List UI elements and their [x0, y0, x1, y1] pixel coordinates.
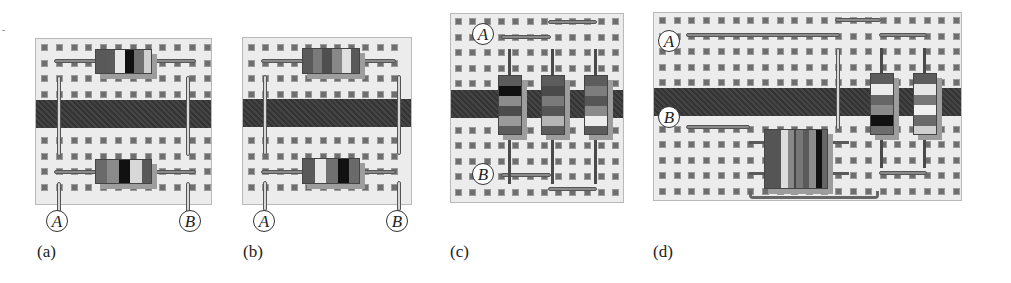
hole: [938, 188, 945, 195]
hole: [569, 127, 576, 134]
hole: [850, 126, 857, 133]
hole: [204, 75, 211, 82]
hole: [204, 60, 211, 67]
resistor: [764, 129, 795, 189]
hole: [115, 91, 122, 98]
hole: [189, 184, 196, 191]
color-band: [803, 130, 810, 188]
hole: [612, 18, 619, 25]
hole: [703, 17, 710, 24]
node-label-a: A: [658, 30, 680, 52]
hole: [777, 79, 784, 86]
hole: [377, 153, 384, 160]
hole: [703, 64, 710, 71]
hole: [894, 188, 901, 195]
hole: [703, 172, 710, 179]
color-band: [342, 49, 352, 73]
color-band: [585, 76, 607, 86]
hole: [527, 189, 534, 196]
hole: [541, 142, 548, 149]
hole: [747, 17, 754, 24]
hole: [291, 91, 298, 98]
hole: [659, 172, 666, 179]
color-band: [809, 130, 816, 188]
hole: [277, 75, 284, 82]
jumper-wire: [263, 181, 267, 211]
hole: [204, 168, 211, 175]
hole: [674, 17, 681, 24]
hole: [484, 80, 491, 87]
color-band: [499, 126, 521, 135]
hole: [688, 48, 695, 55]
color-band: [816, 130, 823, 188]
hole: [377, 44, 384, 51]
hole: [541, 49, 548, 56]
hole: [762, 79, 769, 86]
hole: [41, 60, 48, 67]
hole: [174, 91, 181, 98]
node-label-a: A: [472, 23, 494, 45]
hole: [747, 79, 754, 86]
hole: [555, 173, 562, 180]
hole: [612, 189, 619, 196]
hole: [953, 48, 960, 55]
color-band: [781, 130, 789, 188]
hole: [938, 33, 945, 40]
hole: [762, 17, 769, 24]
hole: [733, 172, 740, 179]
hole: [291, 44, 298, 51]
hole: [291, 184, 298, 191]
color-band: [144, 50, 153, 73]
hole: [598, 158, 605, 165]
hole: [733, 188, 740, 195]
color-band: [106, 50, 116, 73]
hole: [909, 188, 916, 195]
color-band: [542, 126, 564, 135]
hole: [71, 184, 78, 191]
hole: [584, 65, 591, 72]
hole: [498, 49, 505, 56]
color-band: [313, 49, 323, 73]
hole: [598, 49, 605, 56]
hole: [204, 153, 211, 160]
hole: [612, 173, 619, 180]
hole: [894, 141, 901, 148]
hole: [41, 168, 48, 175]
color-band: [585, 96, 607, 106]
color-band: [107, 160, 118, 183]
hole: [674, 141, 681, 148]
hole: [569, 49, 576, 56]
color-band: [542, 96, 564, 106]
hole: [391, 44, 398, 51]
color-band: [349, 159, 360, 183]
hole: [598, 173, 605, 180]
hole: [894, 157, 901, 164]
hole: [659, 188, 666, 195]
hole: [71, 75, 78, 82]
hole: [512, 189, 519, 196]
color-band: [96, 50, 106, 73]
color-band: [96, 160, 107, 183]
hole: [469, 80, 476, 87]
hole: [159, 91, 166, 98]
hole: [850, 48, 857, 55]
hole: [688, 172, 695, 179]
resistor: [870, 73, 894, 135]
hole: [584, 173, 591, 180]
hole: [865, 141, 872, 148]
hole: [204, 91, 211, 98]
color-band: [871, 74, 893, 84]
color-band: [119, 160, 130, 183]
hole: [174, 137, 181, 144]
hole: [718, 17, 725, 24]
node-label-b: B: [179, 210, 201, 232]
hole: [612, 80, 619, 87]
hole: [953, 33, 960, 40]
hole: [484, 65, 491, 72]
hole: [703, 188, 710, 195]
hole: [894, 17, 901, 24]
hole: [541, 18, 548, 25]
hole: [41, 184, 48, 191]
hole: [145, 91, 152, 98]
hole: [305, 91, 312, 98]
